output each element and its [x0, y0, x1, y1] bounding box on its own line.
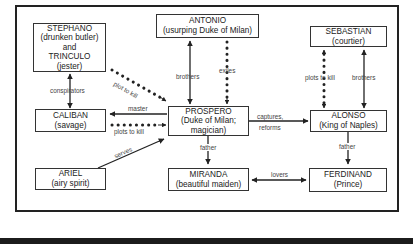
node-subtitle: (Duke of Milan;	[181, 116, 236, 126]
node-title: MIRANDA	[190, 170, 228, 180]
label-plots-to-kill-sebastian: plots to kill	[305, 74, 335, 81]
label-captures: captures,	[257, 113, 283, 120]
node-title: SEBASTIAN	[326, 27, 372, 37]
node-title: CALIBAN	[53, 111, 88, 121]
node-subtitle: (King of Naples)	[319, 121, 378, 131]
node-title: FERDINAND	[324, 170, 372, 180]
label-plots-to-kill-caliban: plots to kill	[114, 128, 144, 135]
edge-serves	[98, 139, 164, 168]
label-brothers-antonio: brothers	[176, 73, 199, 80]
node-subtitle: (usurping Duke of Milan)	[163, 26, 252, 36]
node-subtitle: (jester)	[57, 62, 82, 72]
node-ferdinand: FERDINAND (Prince)	[309, 168, 387, 192]
node-caliban: CALIBAN (savage)	[35, 109, 106, 132]
label-conspirators: conspirators	[50, 87, 85, 94]
node-subtitle: (courtier)	[332, 37, 365, 47]
node-alonso: ALONSO (King of Naples)	[310, 110, 387, 132]
node-subtitle: (savage)	[55, 121, 87, 131]
label-master: master	[128, 105, 148, 112]
node-subtitle: (beautiful maiden)	[176, 180, 242, 190]
label-father-alonso: father	[338, 143, 356, 150]
node-subtitle: magician)	[191, 126, 227, 136]
node-subtitle: and	[63, 43, 77, 53]
label-reforms: reforms	[259, 124, 281, 131]
node-subtitle: (Prince)	[334, 180, 363, 190]
node-subtitle: (airy spirit)	[51, 179, 89, 189]
node-subtitle: (drunken butler)	[41, 33, 99, 43]
label-exiles: exiles	[219, 67, 235, 74]
label-brothers-sebastian: brothers	[352, 74, 375, 81]
node-title: ANTONIO	[189, 16, 226, 26]
label-lovers: lovers	[271, 171, 288, 178]
node-sebastian: SEBASTIAN (courtier)	[310, 26, 387, 47]
node-antonio: ANTONIO (usurping Duke of Milan)	[156, 14, 259, 38]
node-title: ALONSO	[331, 111, 365, 121]
node-stephano-trinculo: STEPHANO (drunken butler) and TRINCULO (…	[33, 23, 106, 72]
node-title: PROSPERO	[185, 107, 231, 117]
node-title: STEPHANO	[47, 24, 92, 34]
node-miranda: MIRANDA (beautiful maiden)	[168, 168, 249, 191]
node-ariel: ARIEL (airy spirit)	[35, 168, 106, 190]
node-prospero: PROSPERO (Duke of Milan; magician)	[168, 106, 249, 136]
node-title: ARIEL	[59, 169, 83, 179]
label-father-prospero: father	[199, 144, 217, 151]
node-title: TRINCULO	[49, 52, 91, 62]
